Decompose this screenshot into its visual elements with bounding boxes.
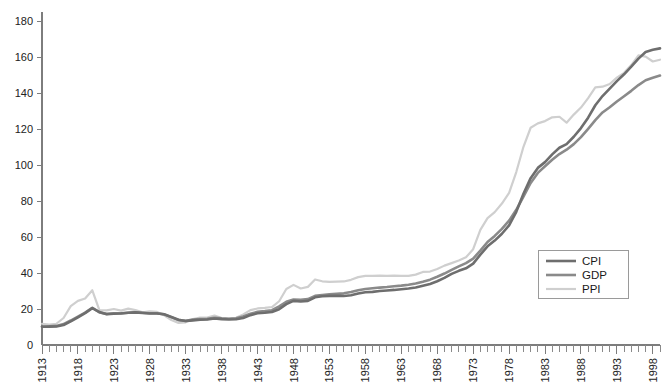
x-axis-tick-label: 1983 — [539, 358, 551, 382]
chart-canvas: 020406080100120140160180 191319181923192… — [0, 0, 664, 389]
y-axis-tick-label: 100 — [15, 159, 33, 171]
y-axis-tick-label: 0 — [27, 339, 33, 351]
x-axis-tick-label: 1923 — [108, 358, 120, 382]
line-chart-figure: 020406080100120140160180 191319181923192… — [0, 0, 664, 389]
x-axis-tick-label: 1943 — [252, 358, 264, 382]
y-axis-tick-label: 180 — [15, 15, 33, 27]
x-axis-tick-label: 1933 — [180, 358, 192, 382]
x-axis-tick-label: 1968 — [431, 358, 443, 382]
x-axis-tick-label: 1948 — [288, 358, 300, 382]
x-axis-tick-label: 1918 — [72, 358, 84, 382]
x-axis-tick-label: 1928 — [144, 358, 156, 382]
chart-legend: CPIGDPPPI — [538, 250, 628, 298]
y-axis-tick-label: 120 — [15, 123, 33, 135]
x-axis-tick-label: 1938 — [216, 358, 228, 382]
x-axis-tick-label: 1958 — [359, 358, 371, 382]
y-axis-tick-label: 140 — [15, 87, 33, 99]
legend-label-cpi: CPI — [582, 255, 601, 267]
y-axis: 020406080100120140160180 — [15, 12, 42, 351]
y-axis-tick-label: 80 — [21, 195, 33, 207]
x-axis-tick-label: 1978 — [503, 358, 515, 382]
y-axis-tick-label: 160 — [15, 51, 33, 63]
x-axis-tick-label: 1963 — [395, 358, 407, 382]
x-axis-tick-label: 1953 — [323, 358, 335, 382]
legend-label-gdp: GDP — [582, 269, 607, 281]
x-axis: 1913191819231928193319381943194819531958… — [36, 345, 660, 382]
y-axis-tick-label: 20 — [21, 303, 33, 315]
legend-label-ppi: PPI — [582, 283, 601, 295]
x-axis-tick-label: 1998 — [647, 358, 659, 382]
x-axis-tick-label: 1988 — [575, 358, 587, 382]
y-axis-tick-label: 40 — [21, 267, 33, 279]
x-axis-tick-label: 1993 — [611, 358, 623, 382]
y-axis-tick-label: 60 — [21, 231, 33, 243]
x-axis-tick-label: 1913 — [36, 358, 48, 382]
x-axis-tick-label: 1973 — [467, 358, 479, 382]
